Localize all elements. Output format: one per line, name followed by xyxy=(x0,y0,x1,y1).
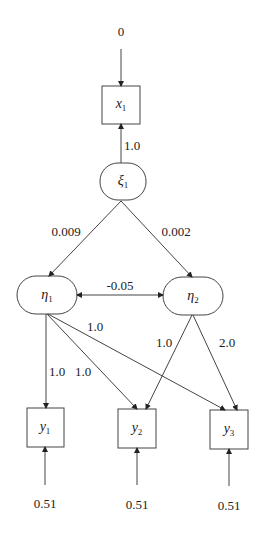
node-y1-label: y1 xyxy=(40,420,51,437)
edge-label-xi1-x1: 1.0 xyxy=(124,139,140,152)
node-x1-label: x1 xyxy=(116,97,127,114)
edge-label-err-y1: 0.51 xyxy=(34,497,57,510)
node-eta2-label: η2 xyxy=(187,289,198,306)
edge-label-err-y2: 0.51 xyxy=(126,498,149,511)
node-xi1-label: ξ1 xyxy=(118,174,129,191)
edge-label-err-y3: 0.51 xyxy=(218,499,241,512)
edge-eta1-y3 xyxy=(48,314,225,410)
node-y3-label: y3 xyxy=(224,422,235,439)
edge-label-eta2-y2: 1.0 xyxy=(156,336,172,349)
edge-label-eta1-eta2: -0.05 xyxy=(106,279,133,292)
edge-label-err-x1: 0 xyxy=(118,25,125,38)
edge-xi1-eta2 xyxy=(121,201,192,277)
node-eta1-label: η1 xyxy=(41,288,52,305)
path-diagram xyxy=(0,0,264,536)
edge-label-eta1-y3: 1.0 xyxy=(87,320,103,333)
edge-xi1-eta1 xyxy=(49,201,121,276)
edge-label-eta1-y1: 1.0 xyxy=(49,365,65,378)
edge-label-eta2-y3: 2.0 xyxy=(219,336,235,349)
node-y2-label: y2 xyxy=(132,421,143,438)
edge-label-xi1-eta1: 0.009 xyxy=(51,225,80,238)
edge-label-eta1-y2: 1.0 xyxy=(75,365,91,378)
edge-label-xi1-eta2: 0.002 xyxy=(161,225,190,238)
edge-eta2-y2 xyxy=(146,315,192,409)
